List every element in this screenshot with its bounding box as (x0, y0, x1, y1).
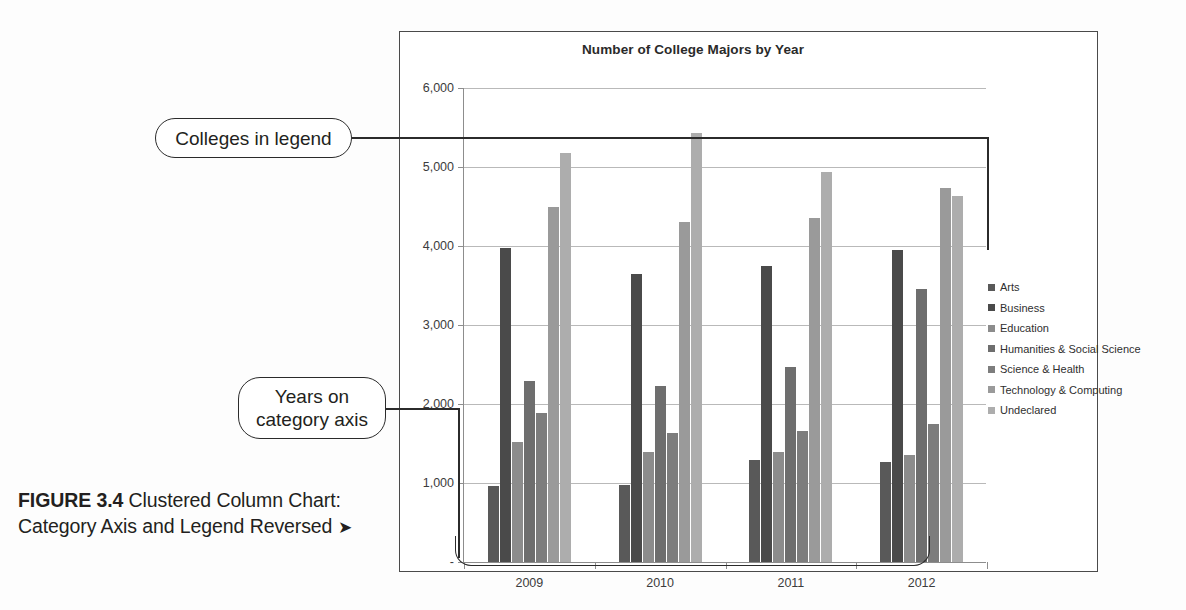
legend-swatch-icon (988, 304, 995, 311)
bar (916, 289, 927, 562)
bar (679, 222, 690, 562)
leader-line-legend-vertical (987, 137, 989, 250)
category-axis-tick (987, 562, 988, 569)
bar-cluster (464, 88, 595, 562)
bar (631, 274, 642, 562)
bar (548, 207, 559, 562)
plot-wrapper: -1,0002,0003,0004,0005,0006,000 20092010… (463, 88, 986, 562)
bar-cluster (595, 88, 726, 562)
year-bracket-annotation (455, 536, 930, 566)
bars-group (464, 88, 986, 562)
bar (524, 381, 535, 562)
y-axis-tick-label: - (450, 555, 454, 569)
legend-item[interactable]: Arts (988, 277, 1098, 298)
category-axis-label: 2011 (777, 576, 804, 590)
legend-item[interactable]: Business (988, 298, 1098, 319)
legend-item-label: Education (1000, 322, 1049, 334)
legend-swatch-icon (988, 386, 995, 393)
leader-line-legend-horizontal (352, 137, 989, 139)
legend-swatch-icon (988, 345, 995, 352)
legend-swatch-icon (988, 366, 995, 373)
bar (892, 250, 903, 562)
y-axis-tick-label: 3,000 (423, 318, 454, 332)
chart-frame: Number of College Majors by Year -1,0002… (399, 31, 1098, 572)
legend-swatch-icon (988, 407, 995, 414)
legend-item-label: Business (1000, 302, 1045, 314)
leader-line-axis-horizontal (386, 408, 460, 410)
y-axis-tick-label: 4,000 (423, 239, 454, 253)
bar (691, 133, 702, 562)
callout-axis-line1: Years on (275, 386, 349, 407)
legend-swatch-icon (988, 284, 995, 291)
bar (785, 367, 796, 562)
y-axis-tick-label: 1,000 (423, 476, 454, 490)
category-axis-label: 2010 (646, 576, 674, 590)
bar (821, 172, 832, 562)
bar (500, 248, 511, 562)
bar (940, 188, 951, 562)
legend-item[interactable]: Undeclared (988, 400, 1098, 421)
callout-axis-text: Years on category axis (256, 385, 368, 431)
plot-area: -1,0002,0003,0004,0005,0006,000 20092010… (463, 88, 986, 562)
figure-label: FIGURE 3.4 (18, 489, 123, 511)
callout-axis-line2: category axis (256, 409, 368, 430)
chart-legend: ArtsBusinessEducationHumanities & Social… (988, 277, 1098, 421)
callout-colleges-in-legend: Colleges in legend (155, 118, 352, 158)
bar-cluster (856, 88, 987, 562)
category-axis-label: 2009 (515, 576, 543, 590)
bar (952, 196, 963, 562)
y-axis-tick-label: 5,000 (423, 160, 454, 174)
legend-swatch-icon (988, 325, 995, 332)
chart-title: Number of College Majors by Year (400, 42, 986, 57)
figure-caption: FIGURE 3.4 Clustered Column Chart: Categ… (18, 487, 378, 541)
bar (761, 266, 772, 562)
bar (809, 218, 820, 562)
legend-item-label: Technology & Computing (1000, 384, 1122, 396)
legend-item-label: Humanities & Social Science (1000, 343, 1141, 355)
caption-arrow-icon: ➤ (338, 518, 352, 537)
legend-item[interactable]: Education (988, 318, 1098, 339)
legend-item-label: Undeclared (1000, 404, 1056, 416)
legend-item-label: Science & Health (1000, 363, 1084, 375)
category-axis-label: 2012 (908, 576, 936, 590)
callout-legend-text: Colleges in legend (175, 127, 331, 150)
callout-years-on-category-axis: Years on category axis (238, 377, 386, 439)
legend-item[interactable]: Technology & Computing (988, 380, 1098, 401)
legend-item-label: Arts (1000, 281, 1020, 293)
legend-item[interactable]: Science & Health (988, 359, 1098, 380)
legend-item[interactable]: Humanities & Social Science (988, 339, 1098, 360)
bar-cluster (726, 88, 857, 562)
bar (560, 153, 571, 562)
y-axis-tick-label: 6,000 (423, 81, 454, 95)
